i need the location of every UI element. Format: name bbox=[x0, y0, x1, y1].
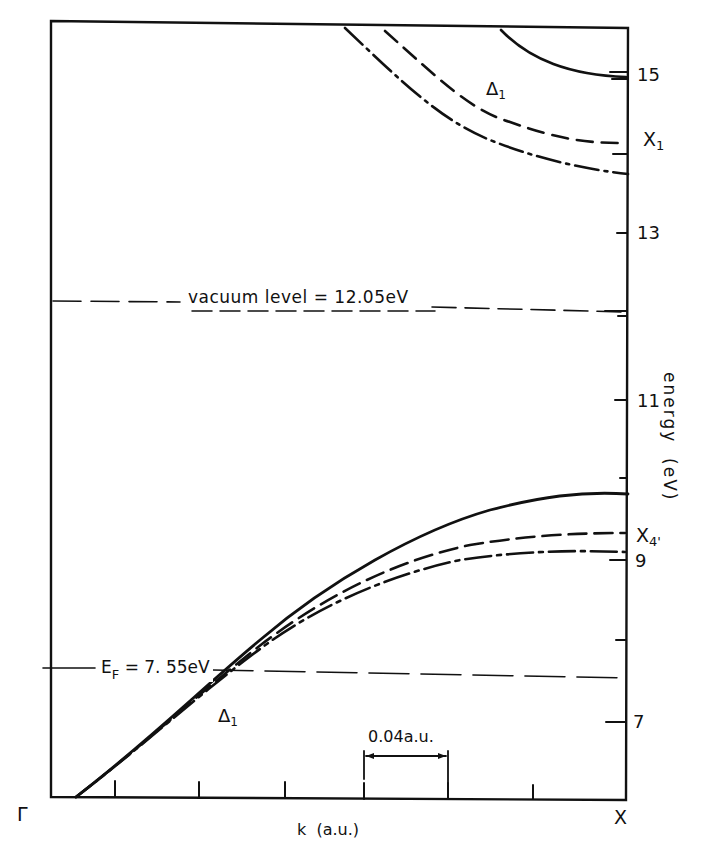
ef-main: E bbox=[101, 657, 112, 677]
delta1-upper-label: Δ1 bbox=[486, 78, 506, 102]
scale-bar-label: 0.04a.u. bbox=[368, 727, 434, 746]
y-tick-15: 15 bbox=[637, 64, 660, 85]
x4-label: X4' bbox=[636, 524, 661, 549]
y-axis-label: energy (eV) bbox=[660, 372, 680, 501]
delta-lower-sub: 1 bbox=[230, 715, 238, 729]
x4-sub: 4' bbox=[649, 534, 661, 549]
delta-upper-main: Δ bbox=[486, 78, 498, 99]
ef-rest: = 7. 55eV bbox=[119, 657, 209, 677]
x-point-label: X bbox=[614, 806, 627, 828]
delta-upper-sub: 1 bbox=[498, 88, 506, 102]
vacuum-level-label: vacuum level = 12.05eV bbox=[188, 287, 409, 307]
delta1-lower-label: Δ1 bbox=[218, 705, 238, 729]
y-tick-7: 7 bbox=[633, 711, 644, 732]
x1-main: X bbox=[643, 128, 656, 150]
y-tick-13: 13 bbox=[637, 222, 660, 243]
y-tick-9: 9 bbox=[635, 550, 646, 571]
fermi-level-label: EF = 7. 55eV bbox=[98, 657, 213, 682]
x-axis-ticks bbox=[115, 781, 533, 799]
lower-band-solid bbox=[76, 493, 628, 797]
scale-bar bbox=[364, 751, 448, 783]
x4-main: X bbox=[636, 524, 649, 546]
y-tick-11: 11 bbox=[637, 390, 660, 411]
x1-sub: 1 bbox=[656, 138, 664, 153]
y-axis-ticks bbox=[605, 72, 627, 722]
vacuum-level-line bbox=[53, 301, 180, 302]
plot-frame bbox=[51, 21, 628, 800]
x1-label: X1 bbox=[643, 128, 664, 153]
x-axis-label: k (a.u.) bbox=[297, 820, 359, 839]
band-structure-chart bbox=[0, 0, 702, 856]
upper-band-solid bbox=[501, 30, 626, 77]
delta-lower-main: Δ bbox=[218, 705, 230, 726]
gamma-label: Γ bbox=[17, 803, 28, 825]
